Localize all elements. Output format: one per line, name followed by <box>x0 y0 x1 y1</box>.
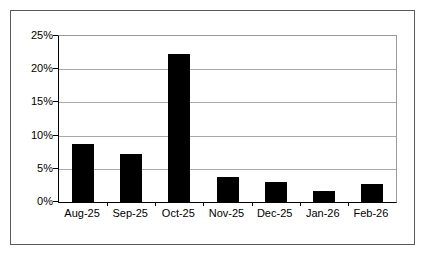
bar <box>217 177 239 202</box>
x-axis-tick-label: Jan-26 <box>306 207 340 219</box>
plot-area <box>58 35 397 203</box>
x-axis-tick-label: Nov-25 <box>209 207 244 219</box>
x-axis-tick-mark <box>348 202 349 206</box>
bar <box>168 54 190 202</box>
y-axis-tick-label: 5% <box>37 162 53 174</box>
bar <box>361 184 383 202</box>
x-axis-tick-mark <box>300 202 301 206</box>
x-axis-tick-label: Sep-25 <box>112 207 147 219</box>
x-axis-tick-label: Dec-25 <box>257 207 292 219</box>
y-axis-tick-label: 15% <box>31 95 53 107</box>
x-axis-tick-mark <box>203 202 204 206</box>
y-axis-tick-label: 10% <box>31 129 53 141</box>
bar <box>265 182 287 202</box>
x-axis-tick-mark <box>107 202 108 206</box>
y-axis-tick-label: 0% <box>37 195 53 207</box>
x-axis-tick-label: Feb-26 <box>353 207 388 219</box>
bar <box>120 154 142 202</box>
bar-series <box>59 36 396 202</box>
x-axis-tick-label: Aug-25 <box>64 207 99 219</box>
bar <box>72 144 94 202</box>
bar <box>313 191 335 202</box>
chart-frame: 0%5%10%15%20%25% Aug-25Sep-25Oct-25Nov-2… <box>10 10 415 245</box>
x-axis-tick-mark <box>252 202 253 206</box>
y-axis: 0%5%10%15%20%25% <box>11 35 53 203</box>
x-axis: Aug-25Sep-25Oct-25Nov-25Dec-25Jan-26Feb-… <box>58 207 397 227</box>
x-axis-tick-mark <box>155 202 156 206</box>
x-axis-tick-label: Oct-25 <box>162 207 195 219</box>
y-axis-tick-label: 25% <box>31 29 53 41</box>
y-axis-tick-label: 20% <box>31 62 53 74</box>
